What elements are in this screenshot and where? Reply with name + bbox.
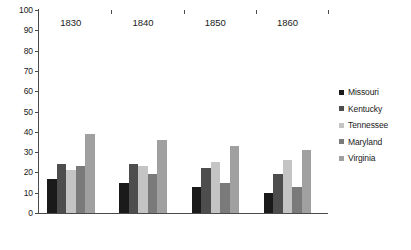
legend-item: Tennessee <box>339 117 411 134</box>
y-axis-tick-label: 20 <box>24 167 33 177</box>
y-axis-tick <box>35 193 39 194</box>
plot-area: 01020304050607080901001830184018501860 <box>39 10 328 213</box>
legend-item-label: Virginia <box>348 153 375 163</box>
legend-item-label: Missouri <box>348 87 379 97</box>
legend-swatch-icon <box>339 106 344 111</box>
bar <box>211 162 221 213</box>
y-axis-tick-label: 0 <box>28 208 33 218</box>
bar <box>148 174 158 213</box>
x-axis-tick <box>328 10 329 14</box>
x-axis-tick <box>111 10 112 14</box>
y-axis-tick-label: 50 <box>24 107 33 117</box>
legend-item-label: Kentucky <box>348 104 382 114</box>
bar <box>302 150 312 213</box>
y-axis-tick <box>35 172 39 173</box>
y-axis-tick <box>35 152 39 153</box>
bar <box>220 183 230 213</box>
x-axis-tick-label: 1830 <box>60 17 81 28</box>
bar <box>157 140 167 213</box>
legend-item: Virginia <box>339 150 411 167</box>
legend-swatch-icon <box>339 123 344 128</box>
legend-swatch-icon <box>339 139 344 144</box>
x-axis-tick-label: 1840 <box>132 17 153 28</box>
bar <box>138 166 148 213</box>
legend-item: Maryland <box>339 134 411 151</box>
bar <box>47 179 57 214</box>
bar <box>129 164 139 213</box>
bar <box>192 187 202 213</box>
legend-item: Missouri <box>339 84 411 101</box>
legend-swatch-icon <box>339 156 344 161</box>
bar <box>283 160 293 213</box>
chart-legend: MissouriKentuckyTennesseeMarylandVirgini… <box>339 84 411 167</box>
y-axis-tick <box>35 30 39 31</box>
y-axis-tick <box>35 71 39 72</box>
y-axis-tick <box>35 132 39 133</box>
y-axis-tick <box>35 51 39 52</box>
y-axis-tick-label: 60 <box>24 86 33 96</box>
y-axis-tick-label: 70 <box>24 66 33 76</box>
bar <box>273 174 283 213</box>
y-axis-tick <box>35 10 39 11</box>
bar <box>57 164 67 213</box>
legend-item: Kentucky <box>339 101 411 118</box>
x-axis-tick <box>256 10 257 14</box>
bar <box>66 170 76 213</box>
bar <box>85 134 95 213</box>
x-axis-tick-label: 1860 <box>277 17 298 28</box>
y-axis-tick-label: 80 <box>24 46 33 56</box>
y-axis-tick-label: 100 <box>19 5 33 15</box>
y-axis-tick <box>35 91 39 92</box>
y-axis-tick-label: 90 <box>24 25 33 35</box>
x-axis-line <box>38 213 328 214</box>
y-axis-tick-label: 40 <box>24 127 33 137</box>
x-axis-tick <box>184 10 185 14</box>
y-axis-tick <box>35 112 39 113</box>
y-axis-tick-label: 30 <box>24 147 33 157</box>
bar <box>201 168 211 213</box>
y-axis-tick <box>35 213 39 214</box>
y-axis-tick-label: 10 <box>24 188 33 198</box>
x-axis-tick-label: 1850 <box>205 17 226 28</box>
bar <box>119 183 129 213</box>
bar <box>230 146 240 213</box>
legend-item-label: Tennessee <box>348 120 388 130</box>
bar <box>292 187 302 213</box>
bar-chart: 01020304050607080901001830184018501860 M… <box>0 0 411 250</box>
bar <box>76 166 86 213</box>
legend-item-label: Maryland <box>348 137 382 147</box>
legend-swatch-icon <box>339 90 344 95</box>
bar <box>264 193 274 213</box>
